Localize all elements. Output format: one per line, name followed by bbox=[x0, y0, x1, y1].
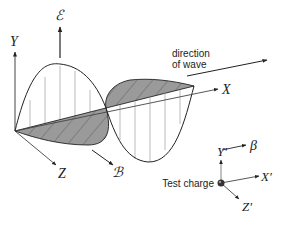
b-field-label: ℬ bbox=[112, 165, 124, 180]
b-field-arrow: ℬ bbox=[92, 150, 124, 180]
em-wave-diagram: Y X ℰ Z ℬ direction bbox=[0, 0, 282, 226]
direction-label-line2: of wave bbox=[172, 59, 207, 70]
direction-of-wave: direction of wave bbox=[172, 48, 267, 76]
b-field-lobe-1 bbox=[15, 108, 109, 145]
x-axis-label: X bbox=[221, 82, 231, 97]
direction-label-line1: direction bbox=[172, 48, 210, 59]
test-charge-label: Test charge bbox=[162, 178, 214, 189]
test-charge-highlight bbox=[219, 181, 221, 183]
test-charge-dot bbox=[218, 180, 225, 187]
beta-label: β bbox=[249, 138, 257, 153]
z-prime-label: Z′ bbox=[242, 199, 252, 214]
e-field-arrow: ℰ bbox=[55, 8, 65, 58]
x-prime-label: X′ bbox=[260, 169, 272, 184]
z-axis-label: Z bbox=[58, 166, 66, 181]
y-prime-label: Y′ bbox=[217, 144, 227, 159]
test-charge-frame: Y′ β X′ Z′ Test charge bbox=[162, 138, 272, 214]
y-axis-label: Y bbox=[10, 34, 20, 49]
e-field-label: ℰ bbox=[55, 8, 65, 23]
